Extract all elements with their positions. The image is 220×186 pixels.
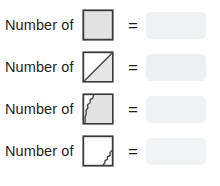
square-with-jagged-right-edge-unshaded-icon [82, 135, 114, 167]
shape-cell [82, 135, 120, 167]
shape-cell [82, 51, 120, 83]
answer-box[interactable] [146, 96, 206, 123]
solid-shaded-square-icon [82, 9, 114, 41]
worksheet-row: Number of = [0, 130, 220, 172]
shape-cell [82, 9, 120, 41]
square-with-diagonal-half-shaded-icon [82, 51, 114, 83]
square-with-jagged-left-edge-mostly-shaded-icon [82, 93, 114, 125]
equals-sign: = [120, 17, 146, 34]
worksheet-row: Number of = [0, 46, 220, 88]
worksheet-container: Number of = Number of = Number of [0, 0, 220, 186]
answer-box[interactable] [146, 138, 206, 165]
equals-sign: = [120, 143, 146, 160]
row-label: Number of [5, 60, 82, 75]
equals-sign: = [120, 59, 146, 76]
answer-box[interactable] [146, 54, 206, 81]
answer-box[interactable] [146, 12, 206, 39]
equals-sign: = [120, 101, 146, 118]
row-label: Number of [5, 102, 82, 117]
shape-cell [82, 93, 120, 125]
row-label: Number of [5, 18, 82, 33]
worksheet-row: Number of = [0, 88, 220, 130]
worksheet-row: Number of = [0, 4, 220, 46]
row-label: Number of [5, 144, 82, 159]
